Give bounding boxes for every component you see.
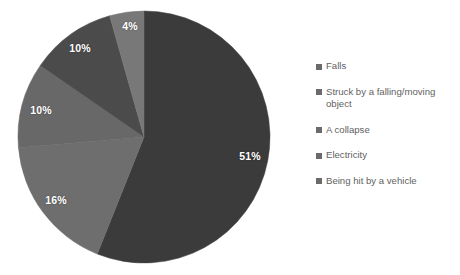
pie-slice-group xyxy=(18,11,270,263)
pie-data-label: 16% xyxy=(45,194,66,206)
legend-item[interactable]: Electricity xyxy=(316,149,458,162)
legend-item-label: Electricity xyxy=(326,149,367,162)
legend-item-label: Being hit by a vehicle xyxy=(326,175,417,188)
pie-data-label: 10% xyxy=(30,104,51,116)
legend-item[interactable]: Struck by a falling/moving object xyxy=(316,86,458,111)
pie-chart-figure: 51%16%10%10%4% FallsStruck by a falling/… xyxy=(0,0,460,275)
legend-swatch-icon xyxy=(316,89,322,95)
legend-swatch-icon xyxy=(316,153,322,159)
pie-data-label: 4% xyxy=(122,20,137,32)
legend-item-label: Falls xyxy=(326,60,346,73)
legend-item[interactable]: Falls xyxy=(316,60,458,73)
legend-item-label: A collapse xyxy=(326,124,370,137)
legend-item-label: Struck by a falling/moving object xyxy=(326,86,458,111)
legend-swatch-icon xyxy=(316,127,322,133)
legend-item[interactable]: Being hit by a vehicle xyxy=(316,175,458,188)
chart-legend: FallsStruck by a falling/moving objectA … xyxy=(316,60,458,200)
pie-data-label: 51% xyxy=(239,150,260,162)
legend-swatch-icon xyxy=(316,64,322,70)
pie-data-label: 10% xyxy=(69,42,90,54)
pie-plot-area: 51%16%10%10%4% xyxy=(0,0,300,275)
legend-item[interactable]: A collapse xyxy=(316,124,458,137)
pie-svg xyxy=(0,0,300,275)
legend-swatch-icon xyxy=(316,178,322,184)
